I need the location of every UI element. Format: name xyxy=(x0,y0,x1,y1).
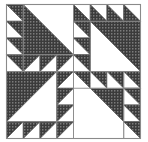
quilt-block-figure xyxy=(0,0,148,142)
sawtooth-column-bottom-right xyxy=(124,88,141,138)
sawtooth-column-top-right xyxy=(74,21,91,71)
quadrant-top-left xyxy=(7,5,74,72)
sawtooth-column-top-left xyxy=(7,5,24,72)
sawtooth-row-top-right xyxy=(74,5,141,22)
sawtooth-row-top-left xyxy=(23,55,73,72)
quilt-block-canvas xyxy=(0,0,148,142)
sawtooth-row-bottom-left xyxy=(7,122,74,139)
sawtooth-column-bottom-left xyxy=(57,72,74,122)
sawtooth-row-bottom-right xyxy=(90,72,140,89)
